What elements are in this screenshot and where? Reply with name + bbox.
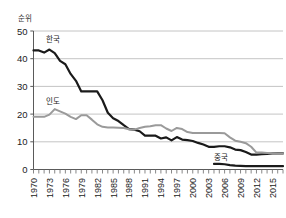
series-labels: 한국인도중국 <box>46 35 228 161</box>
line-chart: 01020304050순위197019731976197919821985198… <box>0 0 286 218</box>
x-tick-label-1970: 1970 <box>29 178 39 198</box>
x-tick-label-1985: 1985 <box>109 178 119 198</box>
x-tick-label-1994: 1994 <box>156 178 166 198</box>
series-label-중국: 중국 <box>214 153 228 162</box>
axes <box>34 31 284 170</box>
series-label-인도: 인도 <box>46 96 60 106</box>
series-group <box>34 50 284 167</box>
y-tick-label-50: 50 <box>17 26 28 37</box>
x-tick-label-1997: 1997 <box>172 178 182 198</box>
y-tick-label-40: 40 <box>17 53 28 64</box>
x-tick-label-1988: 1988 <box>124 178 134 198</box>
x-tick-label-1982: 1982 <box>93 178 103 198</box>
x-tick-label-2006: 2006 <box>220 178 230 198</box>
series-line-인도 <box>34 109 284 153</box>
x-tick-label-1973: 1973 <box>45 178 55 198</box>
x-tick-label-2000: 2000 <box>188 178 198 198</box>
x-tick-label-2009: 2009 <box>236 178 246 198</box>
y-tick-label-10: 10 <box>17 136 28 147</box>
x-tick-label-1976: 1976 <box>61 178 71 198</box>
y-axis-name: 순위 <box>18 14 32 23</box>
y-axis-ticks: 01020304050 <box>17 26 34 176</box>
x-tick-label-2003: 2003 <box>204 178 214 198</box>
series-line-중국 <box>214 164 283 166</box>
x-tick-label-1979: 1979 <box>77 178 87 198</box>
x-tick-label-1991: 1991 <box>140 178 150 198</box>
y-tick-label-0: 0 <box>22 164 27 175</box>
series-label-한국: 한국 <box>46 35 60 44</box>
chart-container: 01020304050순위197019731976197919821985198… <box>0 0 286 218</box>
x-tick-label-2015: 2015 <box>268 178 278 198</box>
x-axis-ticks: 1970197319761979198219851988199119941997… <box>29 178 278 198</box>
y-tick-label-20: 20 <box>17 109 28 120</box>
x-tick-label-2012: 2012 <box>252 178 262 198</box>
series-line-한국 <box>34 50 284 155</box>
y-tick-label-30: 30 <box>17 81 28 92</box>
x-axis-minor-ticks <box>34 170 284 174</box>
